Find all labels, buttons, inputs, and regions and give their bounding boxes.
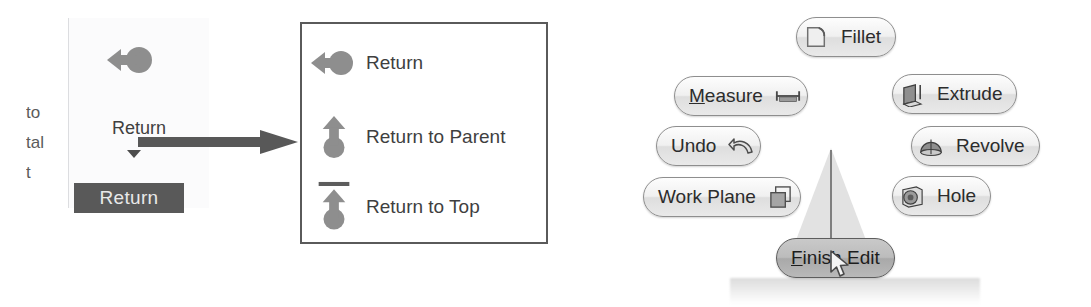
mouse-pointer-icon: [829, 250, 851, 280]
measure-ruler-icon: [773, 88, 803, 104]
marking-menu-item-label: Fillet: [831, 26, 891, 48]
accel-key: F: [791, 247, 803, 268]
marking-menu-item-label: Extrude: [927, 83, 1012, 105]
revolve-icon: [916, 135, 946, 157]
menu-item-label: Return to Top: [366, 196, 480, 218]
marking-menu: Fillet Measure Undo Work Plane: [620, 0, 1091, 307]
return-dropdown-menu[interactable]: Return Return to Parent Return to Top: [300, 22, 548, 244]
return-up-arrow-circle-bar-icon: [302, 178, 366, 236]
gesture-trail-line: [830, 150, 832, 250]
marking-menu-item-label: Revolve: [946, 135, 1035, 157]
menu-item-label: Return to Parent: [366, 126, 505, 148]
undo-arrow-icon: [726, 136, 756, 156]
return-left-arrow-circle-icon: [302, 46, 366, 80]
clipped-label-3: t: [26, 158, 70, 188]
marking-menu-item-undo[interactable]: Undo: [656, 126, 761, 166]
marking-menu-item-hole[interactable]: Hole: [892, 176, 991, 216]
label-rest: easure: [705, 85, 763, 106]
menu-item-return-to-top[interactable]: Return to Top: [302, 170, 546, 244]
reflection-ghost-text: [758, 288, 954, 306]
marking-menu-item-label: Undo: [661, 135, 726, 157]
marking-menu-item-fillet[interactable]: Fillet: [796, 17, 896, 57]
ribbon-clipped-labels: to tal t: [26, 98, 70, 188]
extrude-icon: [897, 82, 927, 107]
menu-item-label: Return: [366, 52, 423, 74]
menu-item-return[interactable]: Return: [302, 26, 546, 100]
ribbon-panel: Return Return: [68, 18, 209, 208]
marking-menu-item-measure[interactable]: Measure: [674, 76, 808, 116]
return-tooltip: Return: [74, 183, 184, 213]
clipped-label-1: to: [26, 98, 70, 128]
hole-icon: [897, 184, 927, 209]
marking-menu-item-work-plane[interactable]: Work Plane: [643, 177, 801, 217]
marking-menu-item-revolve[interactable]: Revolve: [911, 126, 1040, 166]
return-up-arrow-circle-icon: [302, 111, 366, 163]
work-plane-icon: [766, 185, 796, 210]
clipped-label-2: tal: [26, 128, 70, 158]
marking-menu-item-label: Measure: [679, 85, 773, 107]
right-arrow-annotation: [138, 129, 298, 155]
fillet-icon: [801, 25, 831, 49]
accel-key: M: [689, 85, 705, 106]
menu-item-return-to-parent[interactable]: Return to Parent: [302, 100, 546, 174]
marking-menu-item-extrude[interactable]: Extrude: [892, 74, 1017, 114]
marking-menu-item-label: Hole: [927, 185, 986, 207]
marking-menu-item-label: Work Plane: [648, 186, 766, 208]
return-arrow-circle-icon: [101, 42, 161, 78]
